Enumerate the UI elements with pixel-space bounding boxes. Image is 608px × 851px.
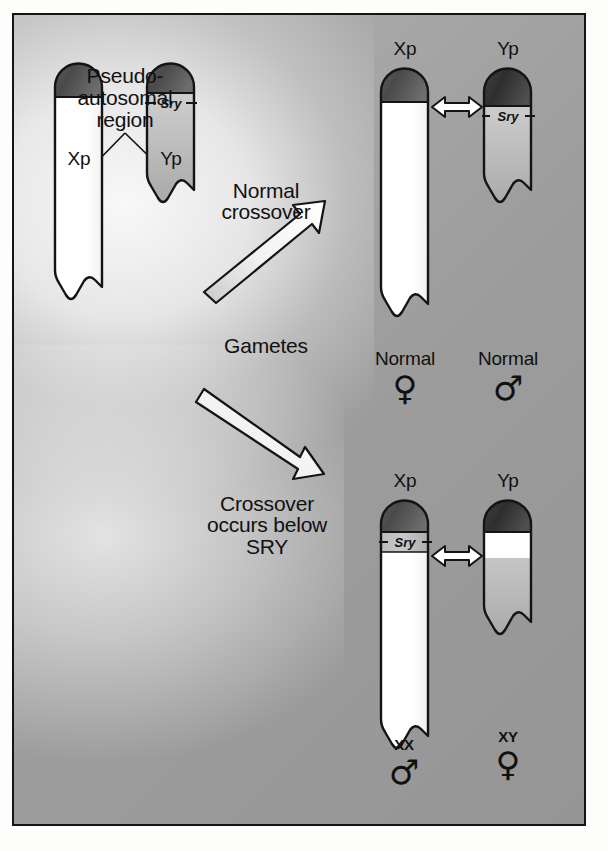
normal-male-text: Normal <box>466 349 550 368</box>
abnormal-outcome-x-chromosome: Sry <box>378 500 432 760</box>
normal-outcome-y-chromosome: Sry <box>481 68 535 218</box>
pseudoautosomal-region-label: Pseudo- autosomal region <box>45 65 205 130</box>
normal-outcome-sry-label: Sry <box>498 109 520 124</box>
abnormal-outcome-sry-label: Sry <box>395 535 417 550</box>
normal-pairing-arrow <box>432 97 482 117</box>
venus-symbol-icon: ♀ <box>363 371 447 405</box>
figure-root: Sry <box>0 0 608 851</box>
mars-symbol-icon: ♂ <box>466 371 550 405</box>
abnormal-outcome-y-chromosome <box>481 500 535 650</box>
parent-y-label: Yp <box>141 149 201 168</box>
abnormal-outcome-y-label: Yp <box>478 471 538 490</box>
venus-symbol-icon: ♀ <box>470 747 546 781</box>
normal-outcome-y-label: Yp <box>478 39 538 58</box>
abnormal-crossover-arrow <box>196 389 324 479</box>
abnormal-pairing-arrow <box>432 546 482 566</box>
normal-female-text: Normal <box>363 349 447 368</box>
abnormal-female-karyotype: XY <box>480 729 536 744</box>
abnormal-crossover-label: Crossover occurs below SRY <box>192 493 342 557</box>
gametes-label: Gametes <box>201 335 331 356</box>
normal-outcome-x-label: Xp <box>375 39 435 58</box>
diagram-vector-layer: Sry <box>14 15 588 828</box>
normal-outcome-x-chromosome <box>378 68 432 328</box>
abnormal-male-karyotype: XX <box>376 737 432 752</box>
figure-frame: Sry <box>12 13 586 826</box>
parent-x-label: Xp <box>49 149 109 168</box>
abnormal-outcome-x-label: Xp <box>375 471 435 490</box>
mars-symbol-icon: ♂ <box>366 755 442 789</box>
normal-crossover-label: Normal crossover <box>201 180 331 223</box>
